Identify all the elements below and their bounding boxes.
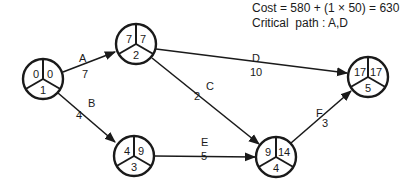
edge-C-activity: C [206,80,214,92]
node-4: 9 14 4 [256,137,296,177]
edge-F: F 3 [291,91,351,143]
edge-A-duration: 7 [82,68,88,80]
edge-A-activity: A [79,52,87,64]
edge-B: B 4 [58,93,115,142]
edge-D-activity: D [252,52,260,64]
node-3-id: 3 [131,161,137,173]
edge-B-duration: 4 [76,109,82,121]
network-diagram: A 7 B 4 C 2 D 10 E 5 F 3 0 0 1 [0,0,412,181]
edge-C-duration: 2 [194,90,200,102]
edge-F-duration: 3 [322,117,328,129]
node-3-latest: 9 [138,145,144,157]
node-4-earliest: 9 [265,146,271,158]
node-2-id: 2 [133,49,139,61]
node-1: 0 0 1 [23,59,63,99]
edge-B-activity: B [88,97,95,109]
node-5-earliest: 17 [354,66,366,78]
node-4-id: 4 [273,162,279,174]
node-2-earliest: 7 [126,33,132,45]
node-3-earliest: 4 [124,145,130,157]
node-1-latest: 0 [47,68,53,80]
edge-E-duration: 5 [201,150,207,162]
edge-E-activity: E [201,136,208,148]
node-4-latest: 14 [278,146,290,158]
edge-D-duration: 10 [250,66,262,78]
node-5-id: 5 [365,82,371,94]
edge-E: E 5 [154,136,255,162]
node-1-id: 1 [40,84,46,96]
node-2-latest: 7 [140,33,146,45]
edge-D: D 10 [156,49,347,78]
node-5-latest: 17 [370,66,382,78]
node-5: 17 17 5 [348,57,388,97]
node-3: 4 9 3 [114,136,154,176]
node-1-earliest: 0 [33,68,39,80]
node-2: 7 7 2 [116,24,156,64]
edge-C: C 2 [152,58,259,144]
edge-A: A 7 [63,52,115,80]
